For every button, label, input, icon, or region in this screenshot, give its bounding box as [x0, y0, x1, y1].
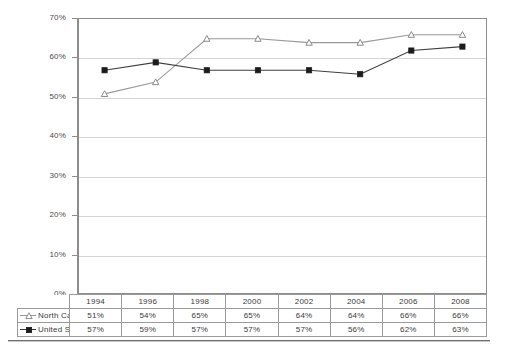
table-cell: 62% [382, 323, 434, 337]
legend-entry[interactable]: United States [18, 323, 70, 337]
table-cell: 57% [70, 323, 122, 337]
y-axis-tick-label: 10% [0, 250, 66, 259]
table-column-header: 1996 [122, 295, 174, 309]
table-column-header: 2008 [434, 295, 486, 309]
legend-label: North Carolina [38, 311, 70, 320]
filled-square-marker-icon [20, 325, 36, 334]
chart-figure: 0%10%20%30%40%50%60%70% 1994199619982000… [0, 0, 506, 351]
table-cell: 54% [122, 309, 174, 323]
data-point-marker [255, 68, 260, 73]
data-point-marker [460, 44, 465, 49]
table-cell: 64% [330, 309, 382, 323]
y-axis-tick-label: 30% [0, 171, 66, 180]
data-point-marker [306, 68, 311, 73]
data-point-marker [409, 48, 414, 53]
series-2 [102, 44, 465, 77]
y-axis-tick-label: 70% [0, 13, 66, 22]
y-axis-tick-label: 40% [0, 131, 66, 140]
table-cell: 57% [174, 323, 226, 337]
table-cell: 51% [70, 309, 122, 323]
table-cell: 56% [330, 323, 382, 337]
y-axis-tick-label: 20% [0, 210, 66, 219]
table-column-header: 2000 [226, 295, 278, 309]
table-header-row: 19941996199820002002200420062008 [18, 295, 487, 309]
data-point-marker [102, 68, 107, 73]
table-cell: 65% [226, 309, 278, 323]
table-column-header: 2004 [330, 295, 382, 309]
data-point-marker [358, 72, 363, 77]
table-corner-cell [18, 295, 70, 309]
series-layer [79, 19, 488, 295]
table-column-header: 2002 [278, 295, 330, 309]
table-cell: 59% [122, 323, 174, 337]
table-cell: 57% [226, 323, 278, 337]
data-table: 19941996199820002002200420062008North Ca… [17, 294, 487, 337]
legend-label: United States [38, 325, 70, 334]
table-row: United States57%59%57%57%57%56%62%63% [18, 323, 487, 337]
table-cell: 64% [278, 309, 330, 323]
table-cell: 57% [278, 323, 330, 337]
table-cell: 65% [174, 309, 226, 323]
table-cell: 66% [382, 309, 434, 323]
table-cell: 66% [434, 309, 486, 323]
data-point-marker [204, 68, 209, 73]
table-column-header: 1994 [70, 295, 122, 309]
legend-entry[interactable]: North Carolina [18, 309, 70, 323]
table-cell: 63% [434, 323, 486, 337]
table-column-header: 2006 [382, 295, 434, 309]
data-point-marker [153, 60, 158, 65]
plot-area [78, 18, 487, 294]
y-axis-tick-label: 50% [0, 92, 66, 101]
page-separator-rule [8, 340, 490, 342]
table-column-header: 1998 [174, 295, 226, 309]
open-triangle-marker-icon [20, 311, 36, 320]
table-row: North Carolina51%54%65%65%64%64%66%66% [18, 309, 487, 323]
y-axis-tick-label: 60% [0, 52, 66, 61]
